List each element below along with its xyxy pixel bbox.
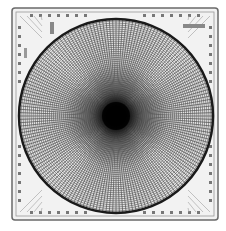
edge-tick xyxy=(209,71,212,74)
edge-tick xyxy=(30,14,33,17)
label-box-top-left xyxy=(50,22,54,34)
edge-tick xyxy=(170,14,173,17)
polar-grid-plate xyxy=(0,0,226,231)
edge-tick xyxy=(143,14,146,17)
polar-grid-photo xyxy=(0,0,226,231)
edge-tick xyxy=(152,211,155,214)
edge-tick xyxy=(209,80,212,83)
edge-tick xyxy=(188,211,191,214)
edge-tick xyxy=(18,53,21,56)
edge-tick xyxy=(57,211,60,214)
edge-tick xyxy=(209,163,212,166)
edge-tick xyxy=(66,211,69,214)
edge-tick xyxy=(161,211,164,214)
edge-tick xyxy=(179,14,182,17)
edge-tick xyxy=(39,211,42,214)
edge-tick xyxy=(75,14,78,17)
edge-tick xyxy=(209,44,212,47)
edge-tick xyxy=(179,211,182,214)
edge-tick xyxy=(143,211,146,214)
edge-tick xyxy=(18,181,21,184)
edge-tick xyxy=(66,14,69,17)
edge-tick xyxy=(30,211,33,214)
edge-tick xyxy=(18,163,21,166)
edge-tick xyxy=(209,190,212,193)
edge-tick xyxy=(18,80,21,83)
edge-tick xyxy=(18,62,21,65)
edge-tick xyxy=(75,211,78,214)
center-blob xyxy=(102,102,130,130)
edge-tick xyxy=(18,44,21,47)
edge-tick xyxy=(209,172,212,175)
edge-tick xyxy=(18,35,21,38)
edge-tick xyxy=(209,154,212,157)
edge-tick xyxy=(209,26,212,29)
edge-tick xyxy=(18,172,21,175)
edge-tick xyxy=(18,145,21,148)
edge-tick xyxy=(18,154,21,157)
edge-tick xyxy=(39,14,42,17)
edge-tick xyxy=(18,190,21,193)
edge-tick xyxy=(209,35,212,38)
edge-tick xyxy=(84,14,87,17)
edge-tick xyxy=(48,14,51,17)
edge-tick xyxy=(84,211,87,214)
edge-tick xyxy=(209,181,212,184)
edge-tick xyxy=(18,71,21,74)
edge-tick xyxy=(209,62,212,65)
edge-tick xyxy=(197,14,200,17)
edge-tick xyxy=(209,53,212,56)
label-box-top-right xyxy=(183,24,205,28)
edge-tick xyxy=(188,14,191,17)
edge-tick xyxy=(209,199,212,202)
edge-tick xyxy=(18,199,21,202)
label-box-left xyxy=(24,48,27,58)
edge-tick xyxy=(197,211,200,214)
edge-tick xyxy=(152,14,155,17)
edge-tick xyxy=(170,211,173,214)
edge-tick xyxy=(161,14,164,17)
edge-tick xyxy=(48,211,51,214)
edge-tick xyxy=(57,14,60,17)
edge-tick xyxy=(18,26,21,29)
